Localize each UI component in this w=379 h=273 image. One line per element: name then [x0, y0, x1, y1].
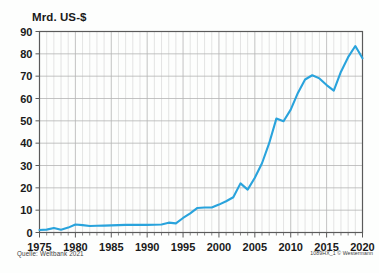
svg-text:80: 80	[20, 48, 32, 60]
line-chart-plot: 0102030405060708090 19751980198519901995…	[0, 0, 379, 273]
data-series-group	[40, 46, 363, 230]
svg-text:50: 50	[20, 115, 32, 127]
source-note: Quelle: Weltbank 2021	[17, 250, 84, 257]
plot-frame	[40, 32, 363, 233]
svg-text:40: 40	[20, 137, 32, 149]
grid-horizontal	[40, 54, 363, 210]
svg-text:20: 20	[20, 182, 32, 194]
credit-note: 1089HX_1 © Westermann	[310, 250, 373, 256]
svg-text:1995: 1995	[171, 241, 195, 253]
svg-text:2000: 2000	[207, 241, 231, 253]
svg-text:70: 70	[20, 70, 32, 82]
svg-text:60: 60	[20, 93, 32, 105]
grid-minor-vertical	[47, 32, 356, 233]
svg-text:90: 90	[20, 26, 32, 38]
x-axis-ticks	[40, 233, 363, 238]
svg-text:1985: 1985	[99, 241, 123, 253]
svg-text:2010: 2010	[278, 241, 302, 253]
svg-text:30: 30	[20, 160, 32, 172]
chart-figure: Mrd. US-$ 0102030405060708090 1975198019…	[0, 0, 379, 273]
svg-text:1990: 1990	[135, 241, 159, 253]
y-axis-tick-labels: 0102030405060708090	[20, 26, 32, 239]
svg-text:2005: 2005	[243, 241, 267, 253]
svg-text:10: 10	[20, 204, 32, 216]
grid-major-vertical	[75, 32, 326, 233]
svg-text:0: 0	[26, 227, 32, 239]
